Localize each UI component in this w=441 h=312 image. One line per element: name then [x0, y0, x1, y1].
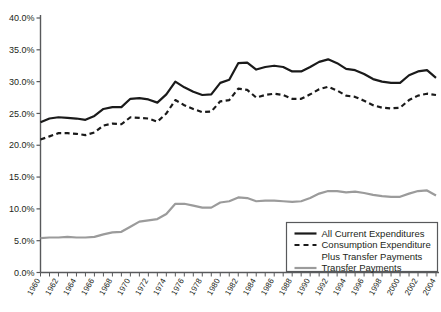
y-axis-tick-label: 10.0%: [9, 204, 35, 214]
x-axis-tick-label: 1968: [97, 277, 114, 297]
legend-label: Consumption Expenditure: [322, 239, 431, 250]
legend-label-continued: Plus Transfer Payments: [322, 251, 423, 262]
y-axis-tick-label: 25.0%: [9, 109, 35, 119]
x-axis-tick-label: 1996: [349, 277, 366, 297]
x-axis-tick-label: 1986: [259, 277, 276, 297]
x-axis-tick-label: 1988: [277, 277, 294, 297]
legend-label: All Current Expenditures: [322, 228, 425, 239]
y-axis-tick-label: 0.0%: [14, 268, 35, 278]
y-axis-tick-label: 15.0%: [9, 172, 35, 182]
x-axis-tick-label: 1974: [151, 277, 168, 297]
chart-container: 0.0%5.0%10.0%15.0%20.0%25.0%30.0%35.0%40…: [0, 0, 441, 312]
x-axis-tick-label: 1962: [44, 277, 61, 297]
y-axis-tick-label: 5.0%: [14, 236, 35, 246]
chart-legend: All Current ExpendituresConsumption Expe…: [287, 223, 438, 274]
x-axis-tick-label: 2000: [385, 277, 402, 297]
series-line: [41, 59, 437, 122]
y-axis-tick-label: 35.0%: [9, 45, 35, 55]
x-axis-tick-label: 1992: [313, 277, 330, 297]
x-axis-tick-label: 1964: [61, 277, 78, 297]
x-axis-tick-label: 1980: [205, 277, 222, 297]
y-axis: 0.0%5.0%10.0%15.0%20.0%25.0%30.0%35.0%40…: [9, 13, 41, 278]
x-axis-tick-label: 1978: [187, 277, 204, 297]
legend-label: Transfer Payments: [322, 262, 402, 273]
x-axis-tick-label: 1990: [295, 277, 312, 297]
x-axis-tick-label: 2004: [421, 277, 438, 297]
x-axis-tick-label: 1994: [331, 277, 348, 297]
y-axis-tick-label: 20.0%: [9, 140, 35, 150]
line-chart: 0.0%5.0%10.0%15.0%20.0%25.0%30.0%35.0%40…: [0, 0, 441, 312]
x-axis-tick-label: 2002: [403, 277, 420, 297]
x-axis-tick-label: 1966: [79, 277, 96, 297]
x-axis-tick-label: 1984: [241, 277, 258, 297]
y-axis-tick-label: 30.0%: [9, 77, 35, 87]
x-axis: 1960196219641966196819701972197419761978…: [26, 273, 439, 297]
x-axis-tick-label: 1976: [169, 277, 186, 297]
x-axis-tick-label: 1982: [223, 277, 240, 297]
data-series-group: [41, 59, 437, 238]
x-axis-tick-label: 1998: [367, 277, 384, 297]
x-axis-tick-label: 1972: [133, 277, 150, 297]
y-axis-tick-label: 40.0%: [9, 13, 35, 23]
x-axis-tick-label: 1960: [26, 277, 43, 297]
x-axis-tick-label: 1970: [115, 277, 132, 297]
